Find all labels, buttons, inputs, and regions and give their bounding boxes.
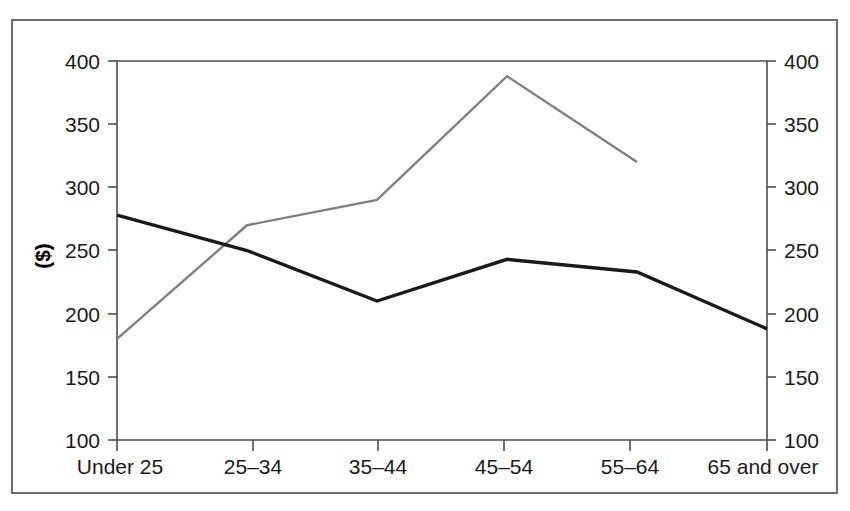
right-tick-label-250: 250 [784, 239, 819, 262]
x-label-35-44: 35–44 [349, 455, 408, 478]
left-tick-label-100: 100 [65, 429, 100, 452]
left-tick-label-350: 350 [65, 113, 100, 136]
y-axis-title: ($) [31, 243, 54, 269]
left-tick-label-400: 400 [65, 50, 100, 73]
left-tick-label-150: 150 [65, 366, 100, 389]
x-label-45-54: 45–54 [475, 455, 534, 478]
right-tick-label-100: 100 [784, 429, 819, 452]
x-axis-category-labels: Under 25 25–34 35–44 45–54 55–64 65 and … [77, 455, 819, 478]
line-chart-svg: 400 350 300 250 200 150 100 400 350 300 … [0, 0, 850, 511]
right-tick-label-300: 300 [784, 176, 819, 199]
left-tick-label-200: 200 [65, 303, 100, 326]
data-series-black-line [117, 215, 767, 329]
plot-area: 400 350 300 250 200 150 100 400 350 300 … [0, 0, 850, 511]
chart-figure: 400 350 300 250 200 150 100 400 350 300 … [0, 0, 850, 511]
x-label-under-25: Under 25 [77, 455, 163, 478]
left-tick-label-250: 250 [65, 239, 100, 262]
right-tick-label-200: 200 [784, 303, 819, 326]
left-axis-tick-labels: 400 350 300 250 200 150 100 [65, 50, 100, 452]
left-tick-label-300: 300 [65, 176, 100, 199]
x-label-55-64: 55–64 [601, 455, 660, 478]
right-axis-tick-labels: 400 350 300 250 200 150 100 [784, 50, 819, 452]
x-axis-ticks [117, 440, 767, 451]
right-tick-label-400: 400 [784, 50, 819, 73]
right-axis-ticks [767, 61, 776, 440]
x-label-25-34: 25–34 [224, 455, 283, 478]
right-tick-label-150: 150 [784, 366, 819, 389]
left-axis-ticks [108, 61, 117, 440]
right-tick-label-350: 350 [784, 113, 819, 136]
x-label-65-and-over: 65 and over [708, 455, 819, 478]
